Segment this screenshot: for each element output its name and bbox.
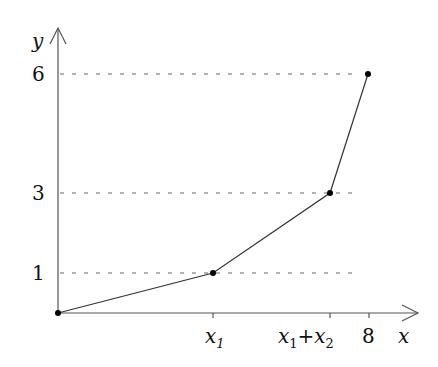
chart: y 6 3 1 x1 x1+x2 8 x <box>0 0 438 367</box>
y-tick-1: 1 <box>32 261 45 285</box>
y-axis-label: y <box>31 29 44 53</box>
data-points <box>55 71 371 316</box>
point-x1 <box>210 270 216 276</box>
x-axis-label: x <box>398 324 409 348</box>
x-tick-8: 8 <box>362 324 375 348</box>
x-tick-x1x2: x1+x2 <box>278 324 334 351</box>
x-tick-x1: x1 <box>205 324 225 351</box>
point-origin <box>55 310 61 316</box>
data-line <box>58 74 368 313</box>
point-x1x2 <box>327 190 333 196</box>
point-8 <box>365 71 371 77</box>
gridlines <box>60 74 360 273</box>
y-tick-3: 3 <box>32 181 45 205</box>
y-tick-6: 6 <box>32 62 45 86</box>
